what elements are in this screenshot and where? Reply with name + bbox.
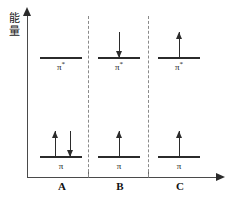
arrowhead-up-icon [176,131,182,138]
y-axis-label-line-1: 能 [6,12,22,25]
y-axis-label-line-2: 量 [6,25,22,38]
y-axis-arrowhead-icon [23,7,31,16]
level-label-superscript: * [62,60,66,68]
electron-arrow-up-pi-b [115,131,124,157]
molecular-orbital-diagram: 能 量 π* π A π* π B π [0,0,230,198]
column-label-b: B [110,180,130,192]
level-label-text: π [59,161,64,171]
level-label-pi-star-a: π* [40,60,82,72]
y-axis-line [27,14,28,178]
electron-arrow-up-pi-star-c [175,32,184,58]
arrowhead-up-icon [52,131,58,138]
level-label-superscript: * [120,60,124,68]
x-axis-arrowhead-icon [216,173,225,181]
electron-arrow-down-pi-star-b [115,32,124,58]
arrowhead-down-icon [67,150,73,157]
x-axis-line [27,177,219,178]
level-label-pi-star-c: π* [158,60,200,72]
arrowhead-up-icon [176,32,182,39]
level-label-pi-b: π [98,159,140,171]
level-label-pi-star-b: π* [98,60,140,72]
electron-arrow-up-pi-c [175,131,184,157]
column-label-a: A [52,180,72,192]
level-label-text: π [177,161,182,171]
y-axis-label: 能 量 [6,12,22,38]
column-divider-1 [88,16,89,177]
arrowhead-up-icon [116,131,122,138]
electron-arrow-down-pi-a [66,131,75,157]
electron-arrow-up-pi-a [51,131,60,157]
level-pi-star-a [40,57,82,59]
column-divider-2 [148,16,149,177]
level-pi-a [40,156,82,158]
level-label-text: π [117,161,122,171]
level-label-pi-a: π [40,159,82,171]
arrowhead-down-icon [116,51,122,58]
level-label-superscript: * [180,60,184,68]
column-label-c: C [170,180,190,192]
level-label-pi-c: π [158,159,200,171]
